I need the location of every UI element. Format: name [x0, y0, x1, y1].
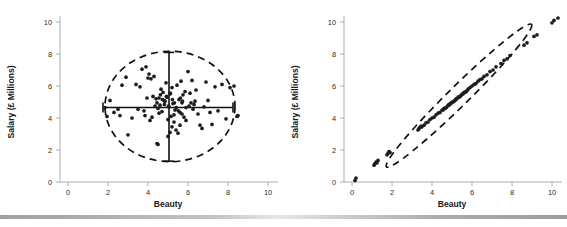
- data-point: [191, 107, 195, 111]
- data-point: [179, 79, 183, 83]
- plot-right-content: 02468100246810BeautySalary (£ Millions): [290, 16, 562, 209]
- data-point: [173, 101, 177, 105]
- x-tick-label: 6: [186, 188, 190, 197]
- data-point: [556, 16, 560, 20]
- data-point: [175, 83, 179, 87]
- data-point: [376, 159, 380, 163]
- data-point: [485, 73, 489, 77]
- data-point: [142, 109, 146, 113]
- data-point: [130, 116, 134, 120]
- data-point: [147, 72, 151, 76]
- y-tick-label: 6: [332, 82, 336, 91]
- data-point: [166, 135, 170, 139]
- data-point: [126, 133, 130, 137]
- data-point: [170, 125, 174, 129]
- x-tick-label: 8: [226, 188, 230, 197]
- x-tick-label: 2: [390, 188, 394, 197]
- x-tick-label: 0: [350, 188, 354, 197]
- scatter-plot-left-svg: 02468100246810BeautySalary (£ Millions): [0, 0, 283, 213]
- data-point: [156, 107, 160, 111]
- data-point: [202, 105, 206, 109]
- y-axis-title: Salary (£ Millions): [6, 65, 16, 138]
- y-tick-label: 8: [332, 50, 336, 59]
- y-tick-label: 2: [332, 146, 336, 155]
- data-point: [163, 103, 167, 107]
- data-point: [165, 95, 169, 99]
- data-point: [525, 41, 529, 45]
- y-tick-label: 0: [48, 178, 52, 187]
- scatter-plot-right-svg: 02468100246810BeautySalary (£ Millions): [284, 0, 567, 213]
- data-point: [505, 57, 509, 61]
- x-tick-label: 0: [66, 188, 70, 197]
- data-point: [175, 106, 179, 110]
- data-point: [388, 151, 392, 155]
- data-point: [194, 88, 198, 92]
- x-tick-label: 2: [106, 188, 110, 197]
- data-point: [136, 107, 140, 111]
- x-tick-label: 10: [264, 188, 272, 197]
- figure-container: 02468100246810BeautySalary (£ Millions) …: [0, 0, 567, 213]
- data-point: [153, 104, 157, 108]
- x-tick-label: 10: [548, 188, 556, 197]
- data-point: [124, 75, 128, 79]
- data-point: [168, 131, 172, 135]
- data-point: [508, 54, 512, 58]
- x-tick-label: 4: [430, 188, 434, 197]
- data-point: [208, 111, 212, 115]
- data-point: [169, 91, 173, 95]
- data-point: [177, 109, 181, 113]
- data-point: [152, 75, 156, 79]
- data-point: [179, 96, 183, 100]
- data-point: [182, 115, 186, 119]
- y-tick-label: 10: [328, 18, 336, 27]
- data-point: [210, 123, 214, 127]
- data-point: [183, 90, 187, 94]
- data-point: [156, 143, 160, 147]
- data-point: [159, 93, 163, 97]
- data-point: [213, 85, 217, 89]
- data-point: [491, 68, 495, 72]
- plot-left-content: 02468100246810BeautySalary (£ Millions): [6, 16, 278, 209]
- data-point: [103, 106, 107, 110]
- data-point: [178, 123, 182, 127]
- data-point: [204, 80, 208, 84]
- data-point: [206, 99, 210, 103]
- y-tick-label: 0: [332, 178, 336, 187]
- data-point: [159, 87, 163, 91]
- data-point: [176, 131, 180, 135]
- data-point: [522, 43, 526, 47]
- data-point: [200, 127, 204, 131]
- x-axis-title: Beauty: [154, 199, 183, 209]
- data-point: [167, 104, 171, 108]
- data-point: [169, 115, 173, 119]
- data-point: [144, 65, 148, 69]
- data-point: [187, 104, 191, 108]
- data-point: [164, 81, 168, 85]
- data-point: [171, 98, 175, 102]
- x-tick-label: 6: [470, 188, 474, 197]
- data-point: [108, 99, 112, 103]
- data-point: [190, 79, 194, 83]
- data-point: [189, 101, 193, 105]
- footer-spacer: [0, 219, 567, 227]
- data-point: [228, 86, 232, 90]
- x-tick-label: 8: [510, 188, 514, 197]
- y-tick-label: 2: [48, 146, 52, 155]
- data-point: [188, 91, 192, 95]
- data-point: [220, 83, 224, 87]
- y-tick-label: 6: [48, 82, 52, 91]
- data-point: [216, 109, 220, 113]
- data-point: [161, 98, 165, 102]
- data-point: [166, 118, 170, 122]
- data-point: [184, 119, 188, 123]
- data-point: [174, 128, 178, 132]
- data-point: [224, 117, 228, 121]
- scatter-panel-left: 02468100246810BeautySalary (£ Millions): [0, 0, 283, 213]
- data-point: [196, 112, 200, 116]
- y-tick-label: 4: [48, 114, 52, 123]
- data-point: [181, 93, 185, 97]
- data-point: [181, 99, 185, 103]
- x-axis-title: Beauty: [438, 199, 467, 209]
- data-point: [146, 76, 150, 80]
- data-point: [157, 111, 161, 115]
